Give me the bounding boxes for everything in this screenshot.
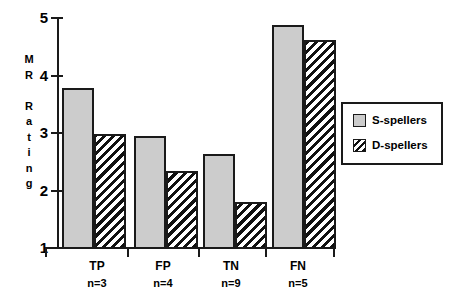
bar-tn-s-spellers (203, 154, 235, 249)
x-tick-start (45, 249, 47, 257)
legend-label-d-spellers: D-spellers (372, 140, 428, 152)
bar-fn-s-spellers (272, 25, 304, 249)
x-category-sublabel: n=4 (128, 275, 198, 292)
x-tick-tp-fp (127, 249, 129, 257)
y-tick-label-5: 5 (26, 10, 48, 25)
plot-area (57, 18, 332, 249)
bar-fp-d-spellers (166, 171, 198, 249)
x-category-label: TP (62, 258, 132, 275)
legend-swatch-s-spellers-icon (353, 114, 366, 127)
x-category-sublabel: n=5 (263, 275, 333, 292)
x-category-sublabel: n=9 (196, 275, 266, 292)
y-tick-label-4: 4 (26, 68, 48, 83)
bar-fp-s-spellers (134, 136, 166, 249)
x-category-fp: FP n=4 (128, 258, 198, 292)
legend-swatch-d-spellers-icon (353, 139, 366, 152)
bar-tp-d-spellers (94, 134, 126, 250)
x-category-tn: TN n=9 (196, 258, 266, 292)
bar-tn-d-spellers (235, 202, 267, 249)
x-tick-tn-fn (265, 249, 267, 257)
legend-item-s-spellers: S-spellers (353, 114, 427, 127)
legend-item-d-spellers: D-spellers (353, 139, 428, 152)
y-tick-label-2: 2 (26, 183, 48, 198)
x-category-fn: FN n=5 (263, 258, 333, 292)
legend: S-spellers D-spellers (341, 102, 443, 165)
bar-tp-s-spellers (62, 88, 94, 249)
x-category-label: FN (263, 258, 333, 275)
x-category-label: FP (128, 258, 198, 275)
x-tick-fp-tn (198, 249, 200, 257)
x-category-tp: TP n=3 (62, 258, 132, 292)
y-tick-labels: 5 4 3 2 1 (22, 0, 48, 306)
bar-chart: M R R a t i n g 5 4 3 2 1 (0, 0, 457, 306)
x-tick-end (333, 249, 335, 257)
x-category-label: TN (196, 258, 266, 275)
legend-label-s-spellers: S-spellers (372, 115, 427, 127)
y-tick-label-3: 3 (26, 125, 48, 140)
bar-fn-d-spellers (304, 40, 336, 249)
x-category-sublabel: n=3 (62, 275, 132, 292)
x-axis-line (45, 247, 335, 249)
